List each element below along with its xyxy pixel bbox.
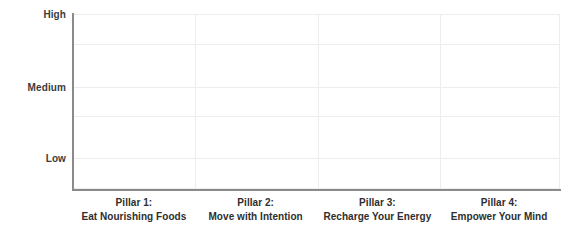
gridline-vertical [318,14,319,189]
y-tick-high: High [2,10,66,20]
y-axis-tick-labels: High Medium Low [0,0,66,227]
x-tick-pillar-2: Pillar 2: Move with Intention [195,196,317,227]
x-tick-pillar-3-line2: Recharge Your Energy [317,210,439,224]
x-axis-category-labels: Pillar 1: Eat Nourishing Foods Pillar 2:… [73,196,560,227]
x-axis-line [72,189,561,191]
x-tick-pillar-4-line1: Pillar 4: [438,196,560,210]
x-tick-pillar-2-line2: Move with Intention [195,210,317,224]
x-tick-pillar-1-line2: Eat Nourishing Foods [73,210,195,224]
x-tick-pillar-4: Pillar 4: Empower Your Mind [438,196,560,227]
gridline-horizontal [73,87,560,88]
gridline-vertical [195,14,196,189]
y-axis-line [72,13,74,190]
gridline-vertical [440,14,441,189]
x-tick-pillar-3-line1: Pillar 3: [317,196,439,210]
x-tick-pillar-3: Pillar 3: Recharge Your Energy [317,196,439,227]
x-tick-pillar-4-line2: Empower Your Mind [438,210,560,224]
x-tick-pillar-1: Pillar 1: Eat Nourishing Foods [73,196,195,227]
pillars-chart: High Medium Low Pillar 1: Eat Nourishing… [0,0,582,227]
x-tick-pillar-1-line1: Pillar 1: [73,196,195,210]
y-tick-low: Low [2,154,66,164]
plot-area [73,14,560,189]
plot-top-border [73,14,560,15]
gridline-horizontal [73,158,560,159]
y-tick-medium: Medium [2,83,66,93]
gridline-horizontal [73,116,560,117]
x-tick-pillar-2-line1: Pillar 2: [195,196,317,210]
plot-right-border [559,14,560,189]
gridline-horizontal [73,44,560,45]
